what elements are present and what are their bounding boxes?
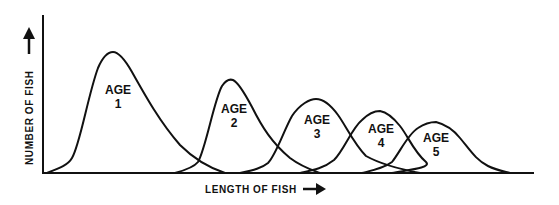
label-age-2-num: 2: [231, 116, 238, 130]
y-axis-arrow-icon: [23, 27, 35, 54]
x-axis-label: LENGTH OF FISH: [205, 184, 297, 195]
x-axis-arrow-icon: [303, 183, 326, 195]
label-age-5: AGE: [423, 131, 449, 145]
label-age-2: AGE: [221, 102, 247, 116]
label-age-1-num: 1: [115, 97, 122, 111]
label-age-4: AGE: [368, 122, 394, 136]
label-age-5-num: 5: [433, 145, 440, 159]
label-age-1: AGE: [105, 83, 131, 97]
chart: AGE 1 AGE 2 AGE 3 AGE 4 AGE 5 LENGTH OF …: [0, 0, 559, 205]
label-age-3-num: 3: [314, 127, 321, 141]
curve-age-1: [47, 52, 225, 173]
label-age-3: AGE: [304, 113, 330, 127]
label-age-4-num: 4: [378, 136, 385, 150]
y-axis-label: NUMBER OF FISH: [24, 70, 35, 165]
